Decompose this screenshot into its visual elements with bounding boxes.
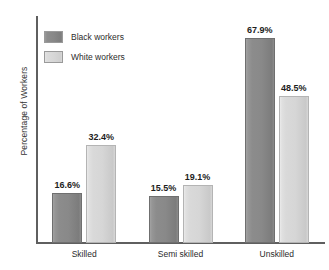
bar-group-item: 15.5%: [149, 16, 179, 243]
plot-area: 16.6%32.4%15.5%19.1%67.9%48.5%: [36, 16, 325, 243]
bar-group-item: 48.5%: [279, 16, 309, 243]
bar-skilled-white-workers: [86, 145, 116, 243]
bar-value-label: 15.5%: [151, 183, 177, 193]
bar-value-label: 32.4%: [88, 132, 114, 142]
bar-value-label: 67.9%: [247, 25, 273, 35]
x-axis-category-labels: SkilledSemi skilledUnskilled: [36, 249, 325, 265]
x-axis-label-semi-skilled: Semi skilled: [158, 249, 203, 259]
bar-unskilled-black-workers: [245, 38, 275, 244]
bar-value-label: 16.6%: [54, 180, 80, 190]
y-axis-title: Percentage of Workers: [19, 41, 29, 181]
bar-unskilled-white-workers: [279, 96, 309, 243]
bar-group-item: 32.4%: [86, 16, 116, 243]
bar-value-label: 48.5%: [281, 83, 307, 93]
x-axis-label-unskilled: Unskilled: [260, 249, 295, 259]
x-axis-label-skilled: Skilled: [72, 249, 97, 259]
bar-chart: Percentage of Workers Black workers Whit…: [0, 0, 329, 270]
bar-semi-skilled-black-workers: [149, 196, 179, 243]
bar-group-item: 19.1%: [183, 16, 213, 243]
bar-skilled-black-workers: [52, 193, 82, 243]
bar-semi-skilled-white-workers: [183, 185, 213, 243]
bar-group-item: 67.9%: [245, 16, 275, 243]
bar-group-item: 16.6%: [52, 16, 82, 243]
bar-value-label: 19.1%: [185, 172, 211, 182]
